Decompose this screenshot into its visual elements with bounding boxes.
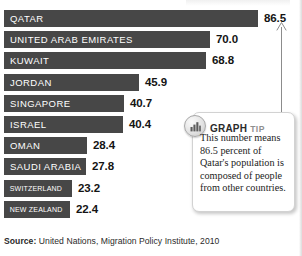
bar: JORDAN xyxy=(4,74,139,91)
bar: UNITED ARAB EMIRATES xyxy=(4,31,210,48)
bar-value-label: 28.4 xyxy=(93,137,115,154)
bar-value-label: 45.9 xyxy=(145,74,167,91)
bar-country-label: KUWAIT xyxy=(4,52,49,69)
bar: ISRAEL xyxy=(4,116,123,133)
bar-country-label: JORDAN xyxy=(4,74,52,91)
bar-country-label: UNITED ARAB EMIRATES xyxy=(4,31,133,48)
bar-country-label: SINGAPORE xyxy=(4,95,71,112)
bar-value-label: 22.4 xyxy=(76,201,98,218)
bar-row: UNITED ARAB EMIRATES70.0 xyxy=(4,31,296,48)
source-text: United Nations, Migration Policy Institu… xyxy=(39,236,220,246)
bar-value-label: 70.0 xyxy=(216,31,238,48)
bar-row: SINGAPORE40.7 xyxy=(4,95,296,112)
bar-value-label: 40.4 xyxy=(129,116,151,133)
graph-figure: QATAR86.5UNITED ARAB EMIRATES70.0KUWAIT6… xyxy=(0,0,302,256)
bar: SAUDI ARABIA xyxy=(4,158,86,175)
bar-value-label: 23.2 xyxy=(78,180,100,197)
bar: SINGAPORE xyxy=(4,95,124,112)
bar-country-label: NEW ZEALAND xyxy=(4,201,63,218)
bar: OMAN xyxy=(4,137,87,154)
pointer-arrowhead-icon xyxy=(276,22,287,31)
bar: QATAR xyxy=(4,10,258,27)
cropped-caption-sliver xyxy=(186,0,290,6)
graph-tip-callout: GRAPHTIP This number means 86.5 percent … xyxy=(192,112,295,212)
bar-value-label: 40.7 xyxy=(130,95,152,112)
bar-country-label: SWITZERLAND xyxy=(4,180,62,197)
bar-row: KUWAIT68.8 xyxy=(4,52,296,69)
pointer-shaft xyxy=(281,27,282,114)
graph-tip-body: This number means 86.5 percent of Qatar'… xyxy=(200,132,292,195)
bar-country-label: QATAR xyxy=(4,10,44,27)
page-edge-shadow xyxy=(299,0,302,256)
bar: KUWAIT xyxy=(4,52,206,69)
bar-country-label: SAUDI ARABIA xyxy=(4,158,81,175)
bar: SWITZERLAND xyxy=(4,180,72,197)
bar-value-label: 68.8 xyxy=(212,52,234,69)
bar-row: QATAR86.5 xyxy=(4,10,296,27)
callout-pointer-arrow xyxy=(276,22,287,114)
source-prefix: Source: xyxy=(4,236,36,246)
bar-value-label: 27.8 xyxy=(92,158,114,175)
source-line: Source: United Nations, Migration Policy… xyxy=(4,236,219,246)
bar-row: JORDAN45.9 xyxy=(4,74,296,91)
bar-country-label: OMAN xyxy=(4,137,40,154)
bar-country-label: ISRAEL xyxy=(4,116,47,133)
bar: NEW ZEALAND xyxy=(4,201,70,218)
